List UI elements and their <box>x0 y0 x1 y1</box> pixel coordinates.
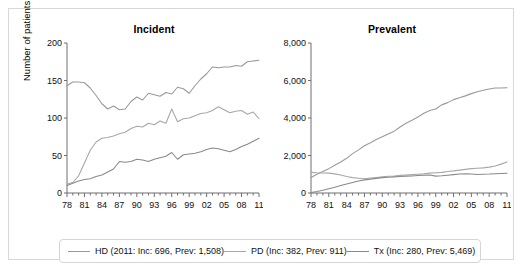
x-tick-label: 78 <box>306 200 316 210</box>
chart-panel-incident: Incident Number of patients 050100150200… <box>23 23 263 223</box>
x-tick-label: 05 <box>466 200 476 210</box>
x-tick-label: 99 <box>431 200 441 210</box>
x-tick-label: 96 <box>167 200 177 210</box>
legend-line-swatch-pd <box>224 251 246 252</box>
legend-label-pd: PD (Inc: 382, Prev: 911) <box>251 246 347 256</box>
series-line-tx <box>311 173 507 192</box>
x-tick-label: 11 <box>502 200 511 210</box>
x-tick-label: 99 <box>184 200 194 210</box>
x-tick-label: 84 <box>97 200 107 210</box>
x-tick-label: 84 <box>342 200 352 210</box>
series-line-hd <box>67 60 259 110</box>
y-tick-label: 0 <box>57 188 62 198</box>
chart-panel-prevalent: Prevalent 02,0004,0006,0008,000788184879… <box>263 23 511 223</box>
chart-title-prevalent: Prevalent <box>263 23 511 35</box>
x-tick-label: 81 <box>79 200 89 210</box>
x-tick-label: 81 <box>324 200 334 210</box>
x-tick-label: 96 <box>413 200 423 210</box>
y-tick-label: 200 <box>47 38 62 48</box>
x-tick-label: 02 <box>202 200 212 210</box>
y-tick-label: 0 <box>301 188 306 198</box>
legend-line-swatch-hd <box>68 251 90 252</box>
y-tick-label: 6,000 <box>283 76 306 86</box>
y-tick-label: 100 <box>47 113 62 123</box>
x-tick-label: 87 <box>359 200 369 210</box>
x-tick-label: 02 <box>449 200 459 210</box>
y-tick-label: 4,000 <box>283 113 306 123</box>
legend-line-swatch-tx <box>347 251 369 252</box>
x-tick-label: 08 <box>237 200 247 210</box>
y-tick-label: 50 <box>52 151 62 161</box>
x-tick-label: 93 <box>395 200 405 210</box>
x-tick-label: 08 <box>484 200 494 210</box>
x-tick-label: 93 <box>149 200 159 210</box>
legend-label-tx: Tx (Inc: 280, Prev: 5,469) <box>374 246 476 256</box>
y-tick-label: 8,000 <box>283 38 306 48</box>
legend-item-pd[interactable]: PD (Inc: 382, Prev: 911) <box>224 246 347 256</box>
x-tick-label: 78 <box>62 200 72 210</box>
chart-title-incident: Incident <box>23 23 263 35</box>
legend-item-hd[interactable]: HD (2011: Inc: 696, Prev: 1,508) <box>68 246 224 256</box>
legend-label-hd: HD (2011: Inc: 696, Prev: 1,508) <box>95 246 224 256</box>
x-tick-label: 05 <box>219 200 229 210</box>
x-tick-label: 11 <box>254 200 263 210</box>
series-line-pd <box>67 107 259 184</box>
x-tick-label: 90 <box>132 200 142 210</box>
chart-legend: HD (2011: Inc: 696, Prev: 1,508) PD (Inc… <box>59 239 481 263</box>
y-tick-label: 2,000 <box>283 151 306 161</box>
plot-area-prevalent: 02,0004,0006,0008,0007881848790939699020… <box>263 37 511 217</box>
series-line-tx <box>67 138 259 185</box>
figure-root: Incident Number of patients 050100150200… <box>0 0 522 275</box>
x-tick-label: 90 <box>377 200 387 210</box>
legend-item-tx[interactable]: Tx (Inc: 280, Prev: 5,469) <box>347 246 476 256</box>
y-tick-label: 150 <box>47 76 62 86</box>
figure-frame: Incident Number of patients 050100150200… <box>8 8 514 260</box>
plot-area-incident: 050100150200788184879093969902050811 <box>23 37 263 217</box>
series-line-hd <box>311 88 507 178</box>
x-tick-label: 87 <box>114 200 124 210</box>
